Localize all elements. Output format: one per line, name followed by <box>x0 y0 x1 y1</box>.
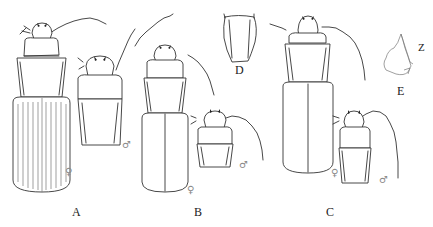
male-symbol-c: ♂ <box>379 175 388 185</box>
panel-label-e: E <box>397 85 404 97</box>
specimen-a-male <box>78 29 135 145</box>
female-symbol-b: ♀ <box>187 185 194 195</box>
male-symbol-b: ♂ <box>239 160 248 170</box>
panel-label-c: C <box>326 206 334 218</box>
specimen-d-pronotum <box>224 14 257 62</box>
specimen-b-male <box>191 109 263 167</box>
beetle-drawings <box>0 0 433 227</box>
panel-label-b: B <box>194 206 202 218</box>
female-symbol-a: ♀ <box>65 167 72 177</box>
specimen-c-male <box>333 110 398 183</box>
annotation-z: Z <box>418 42 425 53</box>
specimen-e-detail <box>384 34 413 75</box>
male-symbol-a: ♂ <box>122 140 131 150</box>
panel-label-a: A <box>72 206 81 218</box>
beetle-illustration-plate: ♀ ♂ ♀ ♂ ♀ ♂ A B C D E Z <box>0 0 433 227</box>
female-symbol-c: ♀ <box>331 168 338 178</box>
panel-label-d: D <box>235 64 244 76</box>
